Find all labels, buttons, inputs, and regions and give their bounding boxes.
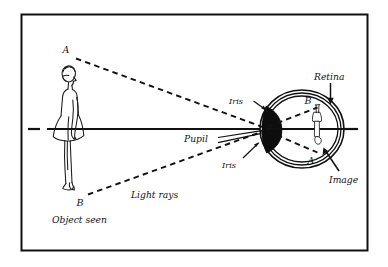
observer-neck-back (68, 83, 69, 90)
label-image-point-A: A (307, 155, 315, 166)
label-image-point-B: B (304, 95, 312, 106)
label-object-seen: Object seen (52, 214, 107, 225)
eye-diagram-figure: A B Object seen Light rays Pupil Iris Ir… (0, 0, 388, 267)
retinal-image-torso (314, 122, 319, 137)
retinal-image-head (315, 137, 322, 144)
retinal-image-skirt (312, 113, 321, 122)
observer-leg-mid (67, 141, 68, 170)
label-pupil: Pupil (183, 133, 208, 144)
diagram-canvas: A B Object seen Light rays Pupil Iris Ir… (0, 0, 388, 267)
label-object-point-B: B (76, 197, 84, 208)
label-retina: Retina (313, 71, 344, 82)
label-iris-upper: Iris (228, 96, 243, 106)
label-object-point-A: A (62, 44, 70, 55)
label-image: Image (328, 174, 359, 185)
label-iris-lower: Iris (221, 160, 236, 170)
label-light-rays: Light rays (130, 189, 179, 200)
